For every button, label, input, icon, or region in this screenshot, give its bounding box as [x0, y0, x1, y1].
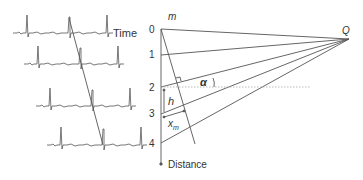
angle-arc: [213, 78, 214, 87]
moveout-line: [69, 18, 103, 145]
trace-2: [24, 46, 124, 69]
trace-1: [13, 15, 113, 38]
ray-3: [161, 39, 349, 114]
alpha-label: α: [200, 76, 208, 88]
ray-2: [161, 39, 349, 87]
trace-3: [36, 88, 136, 111]
ray-4: [161, 39, 349, 143]
diagram-canvas: Time m 0 1 2 3 4 Q α h xm Distance: [0, 0, 363, 180]
q-label: Q: [342, 25, 350, 36]
point-3-label: 3: [149, 108, 155, 119]
xm-arrow-right: [183, 110, 185, 112]
h-arrow-top: [163, 89, 165, 91]
time-label: Time: [113, 27, 137, 39]
axis-end-dot: [160, 163, 162, 165]
geometry: [160, 29, 349, 165]
h-label: h: [168, 95, 174, 107]
ray-0: [161, 29, 349, 39]
xm-label: xm: [167, 118, 179, 131]
ray-1: [161, 39, 349, 55]
xm-sub: m: [173, 124, 179, 131]
point-2-label: 2: [149, 82, 155, 93]
point-4-label: 4: [149, 138, 155, 149]
point-0-label: 0: [149, 24, 155, 35]
trace-4: [47, 127, 147, 150]
xm-arrow-left: [163, 116, 165, 118]
distance-label: Distance: [168, 159, 207, 170]
m-label: m: [168, 11, 176, 22]
right-angle-marker: [176, 77, 181, 81]
point-1-label: 1: [149, 49, 155, 60]
